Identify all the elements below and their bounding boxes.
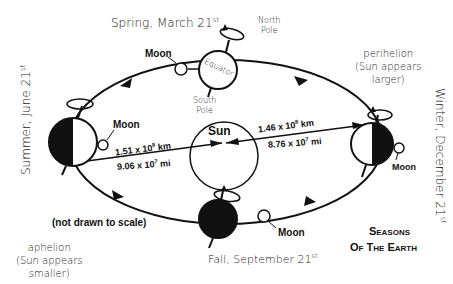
summer-label: Summer, June 21st xyxy=(20,65,32,175)
fall-label: Fall, September 21st xyxy=(208,254,318,265)
moon-label-winter: Moon xyxy=(392,163,416,172)
perihelion-label: perihelion(Sun appearslarger) xyxy=(355,47,422,86)
moon-winter xyxy=(394,143,404,153)
north-pole-label: NorthPole xyxy=(258,16,280,36)
sun-label: Sun xyxy=(208,125,231,137)
spring-label: Spring, March 21st xyxy=(111,17,219,29)
orbit-arrow-icon xyxy=(112,190,124,200)
moon-summer xyxy=(98,140,108,150)
aphelion-label: aphelion(Sun appearssmaller) xyxy=(16,241,83,280)
orbit-arrow-icon xyxy=(294,76,308,86)
earth-fall xyxy=(199,200,237,238)
moon-label-summer: Moon xyxy=(113,120,140,130)
moon-label-fall: Moon xyxy=(278,228,305,238)
south-pole-label: SouthPole xyxy=(193,96,216,116)
diagram-title: Seasonsof the Earth xyxy=(350,223,417,255)
moon-label-spring: Moon xyxy=(145,49,172,59)
orbit-arrow-icon xyxy=(304,196,316,206)
winter-label: Winter, December 21st xyxy=(434,88,446,223)
moon-fall xyxy=(258,210,270,222)
not-to-scale-note: (not drawn to scale) xyxy=(52,218,146,228)
moon-spring xyxy=(175,63,187,75)
